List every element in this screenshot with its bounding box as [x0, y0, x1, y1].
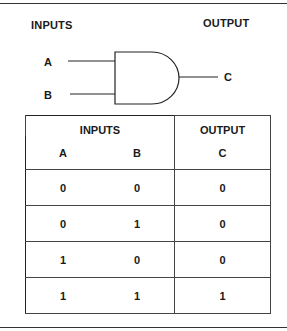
column-header-b: B: [100, 136, 175, 170]
truth-table: INPUTS OUTPUT A B C 0 0 0 0 1 0 1 0 0 1 …: [25, 115, 271, 314]
table-row: 1 1 1: [26, 278, 271, 314]
cell-c: 0: [175, 206, 271, 242]
cell-b: 1: [100, 278, 175, 314]
cell-c: 0: [175, 170, 271, 206]
cell-b: 0: [100, 170, 175, 206]
and-gate-symbol: [0, 0, 287, 115]
inputs-group-header: INPUTS: [26, 116, 175, 137]
bottom-rule: [0, 327, 287, 328]
group-header-row: INPUTS OUTPUT: [26, 116, 271, 137]
and-gate-body: [115, 52, 179, 104]
output-group-header: OUTPUT: [175, 116, 271, 137]
cell-c: 0: [175, 242, 271, 278]
cell-a: 0: [26, 206, 101, 242]
table-row: 0 0 0: [26, 170, 271, 206]
cell-a: 1: [26, 242, 101, 278]
column-header-row: A B C: [26, 136, 271, 170]
cell-b: 0: [100, 242, 175, 278]
cell-a: 0: [26, 170, 101, 206]
cell-c: 1: [175, 278, 271, 314]
table-row: 1 0 0: [26, 242, 271, 278]
table-row: 0 1 0: [26, 206, 271, 242]
column-header-a: A: [26, 136, 101, 170]
cell-b: 1: [100, 206, 175, 242]
column-header-c: C: [175, 136, 271, 170]
cell-a: 1: [26, 278, 101, 314]
